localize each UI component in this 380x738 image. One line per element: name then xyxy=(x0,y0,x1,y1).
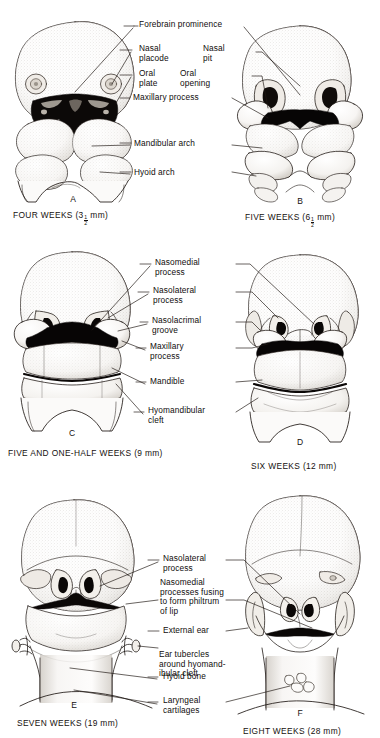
caption-panel-f: EIGHT WEEKS (28 mm) xyxy=(243,726,341,736)
caption-panel-c: FIVE AND ONE-HALF WEEKS (9 mm) xyxy=(8,448,163,458)
label-hyoid-bone: Hyoid bone xyxy=(163,672,206,682)
label-nasolateral-process-e: Nasolateral process xyxy=(163,554,206,573)
embryo-e xyxy=(12,500,152,708)
panel-letter-c: C xyxy=(64,428,80,438)
label-mandibular-arch: Mandibular arch xyxy=(134,139,195,149)
caption-b-suffix: mm) xyxy=(315,212,335,222)
label-nasal-placode: Nasal placode xyxy=(139,44,169,63)
label-nasomedial-processes-fusing: Nasomedial processes fusing to form phil… xyxy=(160,578,224,616)
label-nasomedial-process-c: Nasomedial process xyxy=(155,258,200,277)
caption-panel-b: FIVE WEEKS (612 mm) xyxy=(245,212,335,229)
caption-panel-a: FOUR WEEKS (312 mm) xyxy=(13,210,108,227)
label-nasolateral-process-c: Nasolateral process xyxy=(153,286,196,305)
caption-panel-e: SEVEN WEEKS (19 mm) xyxy=(17,718,118,728)
embryo-b xyxy=(237,26,362,202)
figure-root: Forebrain prominence Nasal placode Oral … xyxy=(0,0,380,738)
label-oral-plate: Oral plate xyxy=(139,69,158,88)
panel-letter-d: D xyxy=(292,437,308,447)
caption-panel-d: SIX WEEKS (12 mm) xyxy=(251,461,337,471)
caption-a-prefix: FOUR WEEKS (3 xyxy=(13,210,84,220)
label-external-ear: External ear xyxy=(163,626,209,636)
panel-letter-f: F xyxy=(292,708,308,718)
embryo-d xyxy=(246,255,359,442)
label-nasal-pit: Nasal pit xyxy=(203,44,225,63)
caption-b-prefix: FIVE WEEKS (6 xyxy=(245,212,311,222)
embryo-a xyxy=(15,22,133,202)
caption-a-suffix: mm) xyxy=(88,210,108,220)
label-maxillary-process-c: Maxillary process xyxy=(150,342,184,361)
label-mandible: Mandible xyxy=(150,377,184,387)
label-laryngeal-cartilages: Laryngeal cartilages xyxy=(163,696,200,715)
panel-letter-e: E xyxy=(66,700,82,710)
label-hyomandibular-cleft: Hyomandibular cleft xyxy=(148,406,205,425)
label-hyoid-arch: Hyoid arch xyxy=(134,168,175,178)
label-maxillary-process-a: Maxillary process xyxy=(133,93,199,103)
label-oral-opening: Oral opening xyxy=(180,69,210,88)
embryo-c xyxy=(14,252,130,431)
panel-letter-b: B xyxy=(292,196,308,206)
label-forebrain-prominence: Forebrain prominence xyxy=(139,20,222,30)
label-nasolacrimal-groove: Nasolacrimal groove xyxy=(152,316,201,335)
panel-letter-a: A xyxy=(65,194,81,204)
embryo-f xyxy=(238,496,364,714)
